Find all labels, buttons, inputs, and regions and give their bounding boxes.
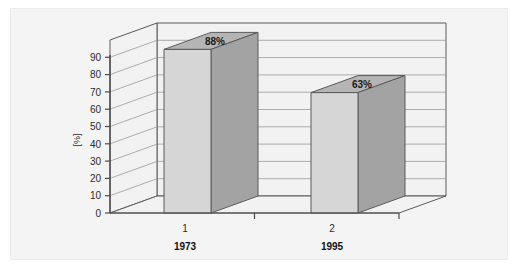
bar-1973-side [211, 32, 258, 213]
bar-1995-front [311, 93, 358, 213]
x-axis-ticks [255, 213, 400, 219]
y-tick-label-10: 10 [90, 190, 102, 201]
x-category-label-1: 1 [182, 223, 188, 234]
y-tick-label-60: 60 [90, 104, 102, 115]
bar-1995-value-label: 63% [352, 79, 372, 90]
y-tick-label-30: 30 [90, 156, 102, 167]
y-tick-label-70: 70 [90, 87, 102, 98]
y-tick-label-80: 80 [90, 69, 102, 80]
y-tick-label-90: 90 [90, 52, 102, 63]
bar-chart-3d: 90 80 70 60 50 40 30 20 10 0 [%] 88% 63% [0, 0, 518, 269]
x-group-label-1995: 1995 [321, 241, 344, 252]
bar-1973-front [164, 49, 211, 213]
bar-1995[interactable]: 63% [311, 76, 405, 213]
y-tick-label-20: 20 [90, 173, 102, 184]
y-tick-label-40: 40 [90, 139, 102, 150]
x-group-label-1973: 1973 [174, 241, 197, 252]
y-axis-title: [%] [72, 133, 82, 146]
y-axis-ticks [105, 57, 110, 213]
bar-1973[interactable]: 88% [164, 32, 258, 213]
y-tick-label-0: 0 [95, 208, 101, 219]
y-axis-tick-labels: 90 80 70 60 50 40 30 20 10 0 [90, 52, 102, 219]
bar-1973-value-label: 88% [205, 36, 225, 47]
bar-1995-side [358, 76, 405, 213]
chart-root: 90 80 70 60 50 40 30 20 10 0 [%] 88% 63% [0, 0, 518, 269]
y-tick-label-50: 50 [90, 121, 102, 132]
x-category-label-2: 2 [329, 223, 335, 234]
